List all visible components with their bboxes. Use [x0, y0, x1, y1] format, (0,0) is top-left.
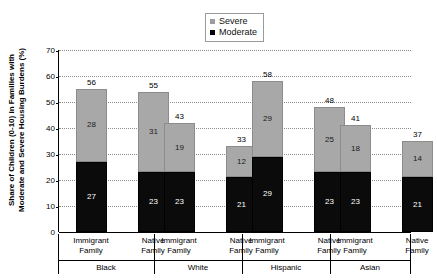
bar-segment-moderate[interactable]: 23: [164, 172, 195, 232]
bar-segment-severe-label: 29: [263, 115, 272, 123]
x-axis-labels: ImmigrantFamily NativeFamily ImmigrantFa…: [58, 234, 410, 280]
x-tick-line1: Immigrant: [73, 236, 109, 245]
y-tick-label-70: 70: [35, 46, 55, 55]
x-tick-line2: Family: [167, 246, 191, 255]
bar-segment-severe[interactable]: 28: [76, 89, 107, 162]
x-tick-line2: Family: [405, 246, 429, 255]
x-tick-line1: Native: [406, 236, 429, 245]
bar-segment-severe[interactable]: 29: [252, 81, 283, 156]
gridline-50: 50: [59, 102, 411, 103]
bar-segment-moderate-label: 23: [175, 198, 184, 206]
bar-white-immigrant[interactable]: 43 19 23: [164, 123, 195, 232]
legend-item-moderate[interactable]: Moderate: [210, 27, 257, 38]
x-tick-line2: Family: [255, 246, 279, 255]
legend-item-severe[interactable]: Severe: [210, 16, 257, 27]
y-tick-label-20: 20: [35, 176, 55, 185]
x-tick-white-immigrant: ImmigrantFamily: [148, 236, 210, 255]
x-tick-asian-immigrant: ImmigrantFamily: [324, 236, 386, 255]
group-label-hispanic: Hispanic: [242, 263, 330, 272]
bar-segment-severe[interactable]: 18: [340, 125, 371, 172]
y-axis-title-line1: Share of Children (0-10) in Families wit…: [7, 54, 16, 206]
y-tick-label-50: 50: [35, 98, 55, 107]
bar-total-label: 48: [314, 96, 345, 105]
bar-segment-moderate-label: 21: [237, 201, 246, 209]
bar-segment-severe-label: 28: [87, 121, 96, 129]
y-tick-label-0: 0: [35, 228, 55, 237]
bar-segment-moderate-label: 23: [325, 198, 334, 206]
bar-segment-moderate-label: 23: [149, 198, 158, 206]
bar-total-label: 58: [252, 70, 283, 79]
bar-total-label: 56: [76, 78, 107, 87]
legend-label-moderate: Moderate: [219, 27, 257, 38]
y-tick-label-30: 30: [35, 150, 55, 159]
chart-legend: Severe Moderate: [205, 13, 264, 42]
plot-area: 70 60 50 40 30 20 10 0 56 28 27 55 31 23…: [58, 50, 410, 232]
x-tick-black-immigrant: ImmigrantFamily: [60, 236, 122, 255]
gridline-60: 60: [59, 76, 411, 77]
group-label-black: Black: [58, 263, 154, 272]
bar-segment-moderate[interactable]: 29: [252, 157, 283, 232]
bar-segment-severe-label: 14: [413, 155, 422, 163]
group-label-white: White: [154, 263, 242, 272]
bar-total-label: 55: [138, 81, 169, 90]
y-axis-title: Share of Children (0-10) in Families wit…: [7, 35, 27, 225]
y-tick-label-60: 60: [35, 72, 55, 81]
x-tick-line1: Immigrant: [249, 236, 285, 245]
bar-segment-severe[interactable]: 19: [164, 123, 195, 172]
bar-segment-moderate-label: 23: [351, 198, 360, 206]
bar-segment-severe-label: 12: [237, 158, 246, 166]
legend-swatch-severe-icon: [210, 19, 215, 24]
bar-segment-severe-label: 25: [325, 136, 334, 144]
bar-segment-moderate[interactable]: 21: [402, 177, 433, 232]
bar-total-label: 37: [402, 130, 433, 139]
legend-swatch-moderate-icon: [210, 30, 215, 35]
x-tick-line1: Immigrant: [161, 236, 197, 245]
bar-segment-moderate[interactable]: 27: [76, 162, 107, 232]
x-tick-hispanic-immigrant: ImmigrantFamily: [236, 236, 298, 255]
bar-total-label: 41: [340, 114, 371, 123]
bar-segment-moderate-label: 29: [263, 190, 272, 198]
bar-segment-moderate-label: 21: [413, 201, 422, 209]
gridline-70: 70: [59, 50, 411, 51]
bar-segment-severe-label: 19: [175, 144, 184, 152]
bar-total-label: 43: [164, 112, 195, 121]
x-axis-baseline: 0: [59, 232, 411, 233]
group-label-asian: Asian: [330, 263, 410, 272]
x-tick-line2: Family: [343, 246, 367, 255]
bar-black-immigrant[interactable]: 56 28 27: [76, 89, 107, 232]
legend-label-severe: Severe: [219, 16, 248, 27]
bar-asian-immigrant[interactable]: 41 18 23: [340, 125, 371, 232]
bar-segment-moderate[interactable]: 23: [340, 172, 371, 232]
x-tick-asian-native: NativeFamily: [386, 236, 437, 255]
x-tick-line1: Immigrant: [337, 236, 373, 245]
bar-hispanic-immigrant[interactable]: 58 29 29: [252, 81, 283, 232]
x-tick-line2: Family: [79, 246, 103, 255]
y-axis-title-line2: Moderate and Severe Housing Burdens (%): [17, 48, 26, 212]
bar-segment-severe-label: 31: [149, 128, 158, 136]
y-tick-label-10: 10: [35, 202, 55, 211]
bar-asian-native[interactable]: 37 14 21: [402, 141, 433, 232]
bar-segment-severe-label: 18: [351, 145, 360, 153]
bar-segment-moderate-label: 27: [87, 193, 96, 201]
bar-segment-severe[interactable]: 14: [402, 141, 433, 177]
y-tick-label-40: 40: [35, 124, 55, 133]
